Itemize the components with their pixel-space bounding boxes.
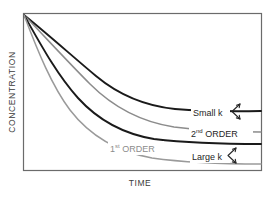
x-axis-label: TIME bbox=[129, 178, 152, 188]
concentration-vs-time-chart: Small k 2nd ORDER Large k 1st ORDER CONC… bbox=[0, 0, 273, 197]
second-order-superscript: nd bbox=[196, 128, 203, 134]
second-order-suffix: ORDER bbox=[203, 129, 239, 139]
first-order-suffix: ORDER bbox=[120, 144, 156, 154]
kinetics-decay-figure: Small k 2nd ORDER Large k 1st ORDER CONC… bbox=[0, 0, 273, 197]
annotation-small-k: Small k bbox=[193, 108, 223, 118]
y-axis-label: CONCENTRATION bbox=[7, 51, 17, 132]
annotation-large-k: Large k bbox=[192, 152, 223, 162]
